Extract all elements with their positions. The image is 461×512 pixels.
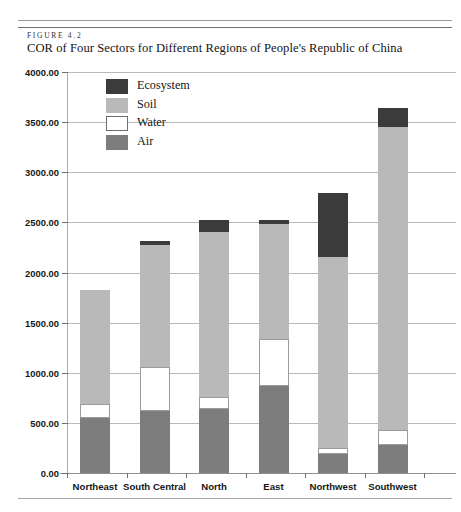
x-axis-label-south-central: South Central bbox=[123, 481, 186, 492]
legend-swatch-soil bbox=[106, 98, 128, 113]
gridline bbox=[68, 72, 456, 73]
y-axis-tick bbox=[62, 273, 68, 274]
page-rule-top bbox=[18, 20, 452, 21]
bar-segment-soil[interactable] bbox=[199, 232, 229, 397]
bar-segment-soil[interactable] bbox=[378, 127, 408, 430]
bar-segment-soil[interactable] bbox=[80, 290, 110, 404]
y-axis-tick-label: 0.00 bbox=[41, 468, 59, 479]
y-axis-tick bbox=[62, 222, 68, 223]
y-axis-tick bbox=[62, 373, 68, 374]
bar-segment-air[interactable] bbox=[378, 445, 408, 473]
y-axis-tick-label: 3500.00 bbox=[25, 117, 59, 128]
x-axis-tick bbox=[305, 473, 306, 478]
bar-segment-water[interactable] bbox=[259, 339, 289, 386]
x-axis-label-southwest: Southwest bbox=[368, 481, 417, 492]
bar-segment-soil[interactable] bbox=[259, 224, 289, 338]
bar-segment-ecosystem[interactable] bbox=[318, 193, 348, 257]
y-axis-tick-label: 1000.00 bbox=[25, 367, 59, 378]
bar-segment-ecosystem[interactable] bbox=[259, 220, 289, 224]
x-axis-label-northeast: Northeast bbox=[73, 481, 118, 492]
bar-segment-ecosystem[interactable] bbox=[378, 108, 408, 127]
chart-plot-area: 4000.003500.003000.002500.002000.001500.… bbox=[68, 72, 456, 473]
x-axis-tick bbox=[246, 473, 247, 478]
legend-label-water: Water bbox=[137, 115, 166, 130]
x-axis-tick bbox=[365, 473, 366, 478]
y-axis-tick bbox=[62, 122, 68, 123]
x-axis-tick bbox=[424, 473, 425, 478]
x-axis-tick bbox=[67, 473, 68, 478]
y-axis-tick-label: 1500.00 bbox=[25, 317, 59, 328]
bar-segment-water[interactable] bbox=[199, 397, 229, 409]
legend-swatch-air bbox=[106, 135, 128, 150]
x-axis-label-northwest: Northwest bbox=[310, 481, 357, 492]
y-axis-tick bbox=[62, 423, 68, 424]
legend-swatch-ecosystem bbox=[106, 79, 128, 94]
bar-segment-soil[interactable] bbox=[140, 245, 170, 366]
page-rule-under-header bbox=[18, 27, 452, 28]
y-axis-tick bbox=[62, 172, 68, 173]
x-axis-label-east: East bbox=[263, 481, 283, 492]
bar-segment-air[interactable] bbox=[199, 409, 229, 473]
bar-segment-water[interactable] bbox=[378, 430, 408, 445]
legend-swatch-water bbox=[106, 116, 128, 131]
figure-page: FIGURE 4.2 COR of Four Sectors for Diffe… bbox=[0, 0, 461, 512]
x-axis-tick bbox=[127, 473, 128, 478]
x-axis-tick bbox=[186, 473, 187, 478]
bar-segment-water[interactable] bbox=[318, 448, 348, 454]
y-axis-tick-label: 4000.00 bbox=[25, 67, 59, 78]
bar-segment-air[interactable] bbox=[80, 418, 110, 473]
y-axis-tick-label: 2000.00 bbox=[25, 267, 59, 278]
bar-segment-air[interactable] bbox=[318, 454, 348, 473]
figure-title: COR of Four Sectors for Different Region… bbox=[27, 41, 402, 56]
y-axis-tick-label: 500.00 bbox=[30, 417, 59, 428]
y-axis-tick bbox=[62, 72, 68, 73]
bar-segment-soil[interactable] bbox=[318, 257, 348, 447]
y-axis-tick bbox=[62, 323, 68, 324]
legend-label-soil: Soil bbox=[137, 97, 157, 112]
figure-label: FIGURE 4.2 bbox=[27, 31, 82, 40]
page-rule-bottom bbox=[18, 498, 452, 499]
bar-segment-water[interactable] bbox=[80, 404, 110, 418]
x-axis-label-north: North bbox=[201, 481, 227, 492]
y-axis-tick-label: 2500.00 bbox=[25, 217, 59, 228]
legend-label-air: Air bbox=[137, 134, 153, 149]
bar-segment-ecosystem[interactable] bbox=[140, 241, 170, 245]
legend-label-ecosystem: Ecosystem bbox=[137, 78, 190, 93]
bar-segment-air[interactable] bbox=[140, 411, 170, 473]
bar-segment-air[interactable] bbox=[259, 386, 289, 473]
bar-segment-ecosystem[interactable] bbox=[199, 220, 229, 232]
y-axis-tick-label: 3000.00 bbox=[25, 167, 59, 178]
bar-segment-water[interactable] bbox=[140, 367, 170, 411]
